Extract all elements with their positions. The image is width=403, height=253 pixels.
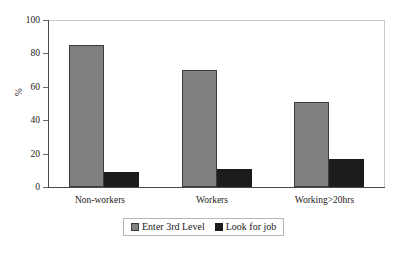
bar-working-20hrs-look-for-job <box>329 159 364 187</box>
legend: Enter 3rd Level Look for job <box>123 218 284 236</box>
y-tick-20 <box>43 154 48 155</box>
bar-non-workers-look-for-job <box>104 172 139 187</box>
bar-working-20hrs-enter-3rd-level <box>294 102 329 187</box>
y-tick-0 <box>43 187 48 188</box>
x-axis-line <box>48 187 385 188</box>
legend-label-enter-3rd-level: Enter 3rd Level <box>142 221 205 233</box>
legend-swatch-icon-enter-3rd-level <box>131 223 139 231</box>
y-tick-60 <box>43 87 48 88</box>
x-axis-label-workers: Workers <box>152 194 272 206</box>
bar-chart: 100 80 60 40 20 0 % Non-workers Workers … <box>0 0 403 253</box>
x-axis-label-non-workers: Non-workers <box>40 194 160 206</box>
legend-swatch-icon-look-for-job <box>215 223 223 231</box>
bar-non-workers-enter-3rd-level <box>69 45 104 187</box>
y-tick-80 <box>43 53 48 54</box>
legend-item-look-for-job: Look for job <box>215 221 277 233</box>
bar-workers-enter-3rd-level <box>182 70 217 187</box>
legend-label-look-for-job: Look for job <box>226 221 277 233</box>
y-axis-title: % <box>14 88 24 96</box>
y-axis-label-80: 80 <box>10 48 40 58</box>
legend-item-enter-3rd-level: Enter 3rd Level <box>131 221 205 233</box>
y-tick-40 <box>43 120 48 121</box>
y-axis-label-40: 40 <box>10 115 40 125</box>
y-axis-label-20: 20 <box>10 149 40 159</box>
y-axis-label-100: 100 <box>10 15 40 25</box>
x-axis-label-working-20hrs: Working>20hrs <box>262 194 387 206</box>
y-tick-100 <box>43 20 48 21</box>
y-axis-label-0: 0 <box>10 182 40 192</box>
y-axis-line <box>48 20 49 188</box>
bar-workers-look-for-job <box>217 169 252 187</box>
